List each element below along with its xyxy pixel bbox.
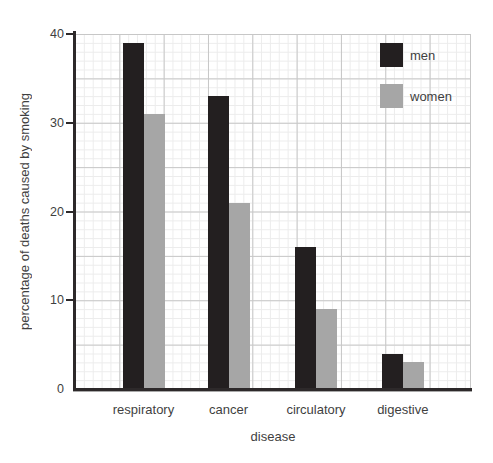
bar-women-circulatory bbox=[316, 309, 337, 389]
y-tick-mark-30 bbox=[66, 122, 74, 124]
legend-item-men: men bbox=[380, 43, 452, 67]
category-label-circulatory: circulatory bbox=[266, 402, 366, 417]
legend: men women bbox=[380, 43, 452, 125]
y-tick-mark-10 bbox=[66, 299, 74, 301]
legend-label-women: women bbox=[410, 89, 452, 104]
bar-chart: percentage of deaths caused by smoking m… bbox=[0, 0, 493, 463]
bar-women-respiratory bbox=[144, 114, 165, 389]
women-series-swatch bbox=[380, 84, 403, 108]
legend-label-men: men bbox=[410, 48, 435, 63]
y-tick-label-30: 30 bbox=[36, 115, 64, 131]
plot-area: men women bbox=[75, 34, 471, 389]
y-tick-label-0: 0 bbox=[36, 381, 64, 397]
y-tick-label-10: 10 bbox=[36, 292, 64, 308]
y-axis-title: percentage of deaths caused by smoking bbox=[15, 34, 33, 389]
bar-men-cancer bbox=[208, 96, 229, 389]
bar-men-respiratory bbox=[123, 43, 144, 389]
y-tick-label-20: 20 bbox=[36, 204, 64, 220]
x-axis-title: disease bbox=[223, 429, 323, 444]
y-tick-label-40: 40 bbox=[36, 26, 64, 42]
bar-men-circulatory bbox=[295, 247, 316, 389]
bar-women-cancer bbox=[229, 203, 250, 389]
category-label-digestive: digestive bbox=[353, 402, 453, 417]
x-axis-line bbox=[73, 388, 472, 391]
bar-men-digestive bbox=[382, 354, 403, 390]
bar-women-digestive bbox=[403, 362, 424, 389]
y-tick-mark-20 bbox=[66, 211, 74, 213]
men-series-swatch bbox=[380, 43, 403, 67]
legend-item-women: women bbox=[380, 84, 452, 108]
category-label-cancer: cancer bbox=[179, 402, 279, 417]
y-tick-mark-40 bbox=[66, 33, 74, 35]
